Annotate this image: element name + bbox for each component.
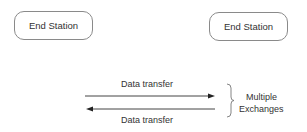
arrow-right [85,94,215,99]
arrow-right-label: Data transfer [121,79,173,89]
curly-brace-icon [227,84,234,117]
brace-label-line1: Multiple [246,92,277,102]
arrow-left [86,107,215,112]
arrow-left-label: Data transfer [121,115,173,125]
brace-label-line2: Exchanges [239,104,284,114]
